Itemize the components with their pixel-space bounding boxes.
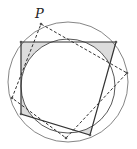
point-p-label: P — [34, 6, 44, 21]
geometry-diagram: P — [0, 0, 137, 149]
